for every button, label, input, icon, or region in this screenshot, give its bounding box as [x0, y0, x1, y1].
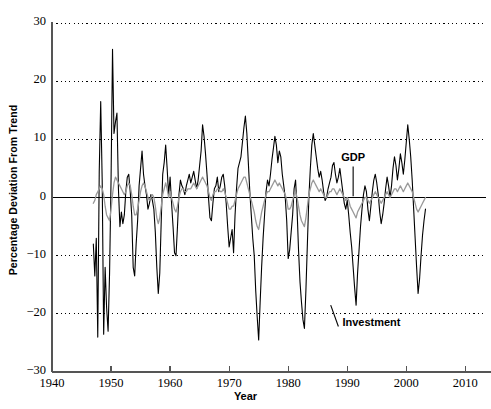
- x-axis-tick-label: 2000: [381, 376, 431, 391]
- y-axis-tick-label: 20: [16, 72, 46, 87]
- y-axis-tick-label: 0: [16, 189, 46, 204]
- x-axis-tick-label: 1960: [145, 376, 195, 391]
- x-axis-tick-label: 1950: [86, 376, 136, 391]
- x-axis-tick-label: 1940: [27, 376, 77, 391]
- series-annotation-gdp: GDP: [341, 151, 365, 163]
- y-axis-tick-label: −20: [16, 305, 46, 320]
- x-axis-tick-label: 2010: [440, 376, 490, 391]
- plot-canvas: [0, 0, 491, 409]
- y-axis-tick-label: 30: [16, 14, 46, 29]
- y-axis-tick-label: 10: [16, 130, 46, 145]
- annotation-leader-line: [331, 305, 339, 326]
- x-axis-tick-label: 1980: [263, 376, 313, 391]
- x-axis-tick-label: 1970: [204, 376, 254, 391]
- chart-figure: Percentage Deviation From Trend Year −30…: [0, 0, 491, 409]
- series-line-investment: [93, 49, 425, 340]
- x-axis-tick-label: 1990: [322, 376, 372, 391]
- x-axis-label: Year: [0, 390, 491, 402]
- series-annotation-investment: Investment: [342, 316, 400, 328]
- series-line-gdp: [93, 177, 425, 229]
- y-axis-tick-label: −10: [16, 247, 46, 262]
